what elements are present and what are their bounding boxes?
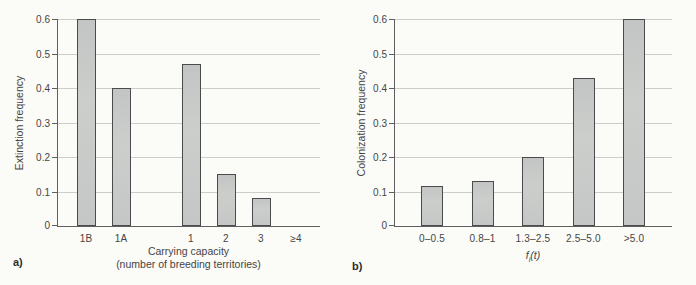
y-tick-label: 0.3 (16, 118, 50, 130)
x-tick-label: >5.0 (602, 233, 666, 245)
y-tick-mark (389, 123, 394, 124)
y-tick-label: 0.2 (353, 152, 387, 164)
y-tick-label: 0.5 (16, 49, 50, 61)
y-tick-label: 0 (16, 220, 50, 232)
plot-area (57, 19, 320, 227)
y-tick-label: 0.4 (16, 83, 50, 95)
y-tick-mark (52, 123, 57, 124)
y-tick-mark (52, 54, 57, 55)
bar (112, 88, 131, 226)
y-tick-mark (52, 157, 57, 158)
y-tick-label: 0.4 (353, 83, 387, 95)
panel-b: Colonization frequency fi(t) b) 00.10.20… (348, 0, 696, 285)
bar (252, 198, 271, 226)
panel-a: Extinction frequency Carrying capacity (… (0, 0, 348, 285)
y-tick-mark (52, 19, 57, 20)
plot-area (394, 19, 672, 227)
panel-label-b: b) (352, 260, 362, 272)
y-tick-mark (389, 54, 394, 55)
x-axis-title: Carrying capacity (number of breeding te… (57, 245, 320, 270)
y-tick-label: 0.2 (16, 152, 50, 164)
x-axis-title: fi(t) (394, 249, 672, 267)
y-tick-mark (389, 192, 394, 193)
gridline (58, 54, 320, 55)
bar (217, 174, 236, 226)
y-tick-mark (389, 157, 394, 158)
figure: Extinction frequency Carrying capacity (… (0, 0, 696, 285)
x-tick-label: ≥4 (264, 233, 328, 245)
x-axis-title-line2: (number of breeding territories) (57, 258, 320, 271)
bar (182, 64, 201, 226)
panel-label-a: a) (13, 256, 23, 268)
bar (522, 157, 544, 226)
bar (623, 19, 645, 226)
y-tick-label: 0.5 (353, 49, 387, 61)
bar (421, 186, 443, 226)
y-tick-mark (389, 88, 394, 89)
y-tick-label: 0 (353, 220, 387, 232)
y-tick-label: 0.1 (16, 187, 50, 199)
x-axis-title-line1: Carrying capacity (57, 245, 320, 258)
y-tick-label: 0.1 (353, 187, 387, 199)
y-tick-mark (389, 225, 394, 226)
y-tick-label: 0.6 (353, 14, 387, 26)
y-tick-label: 0.6 (16, 14, 50, 26)
y-tick-mark (389, 19, 394, 20)
bar (472, 181, 494, 226)
bar (77, 19, 96, 226)
y-tick-mark (52, 192, 57, 193)
x-axis-title-suffix: (t) (530, 249, 540, 261)
y-tick-mark (52, 88, 57, 89)
gridline (58, 19, 320, 20)
x-tick-label: 1A (89, 233, 153, 245)
y-tick-mark (52, 225, 57, 226)
bar (573, 78, 595, 226)
y-tick-label: 0.3 (353, 118, 387, 130)
